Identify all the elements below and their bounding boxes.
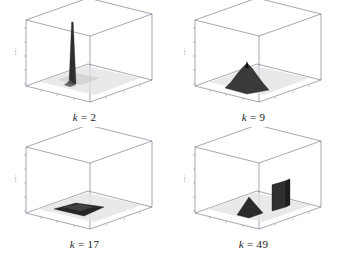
plot-panel-k49: density k = 49 (169, 127, 338, 253)
caption-equals: = (250, 111, 257, 123)
caption-k-symbol: k (73, 111, 78, 123)
caption-value: 9 (260, 111, 266, 123)
floor-shade-k49 (207, 193, 311, 222)
plot-panel-k17: density k = 17 (0, 127, 169, 253)
plot-area-k17: density (0, 127, 169, 231)
z-axis-label-k17: density (14, 174, 17, 182)
plot-area-k49: density (169, 127, 338, 231)
panel-caption-k17: k = 17 (0, 238, 169, 250)
plot-panel-k2: density k = 2 (0, 0, 169, 127)
plot-area-k2: density (0, 0, 169, 104)
plot-panel-k9: density k = 9 (169, 0, 338, 127)
surface-block-k49 (272, 181, 286, 211)
plot-area-k9: density (169, 0, 338, 104)
box-top-k9 (195, 0, 321, 36)
caption-value: 49 (257, 238, 269, 250)
panel-caption-k9: k = 9 (169, 111, 338, 123)
panel-caption-k49: k = 49 (169, 238, 338, 250)
caption-k-symbol: k (239, 238, 244, 250)
box-top-k17 (26, 127, 152, 163)
caption-value: 2 (91, 111, 97, 123)
caption-equals: = (81, 111, 88, 123)
panel-caption-k2: k = 2 (0, 111, 169, 123)
z-axis-label-k9: density (183, 47, 186, 55)
box-top-k2 (26, 0, 152, 36)
surface-block-side-k49 (286, 179, 290, 207)
caption-equals: = (247, 238, 254, 250)
box-top-k49 (195, 127, 321, 163)
caption-value: 17 (88, 238, 100, 250)
z-axis-ticks-k17 (24, 155, 26, 211)
z-axis-ticks-k2 (24, 28, 26, 84)
z-axis-ticks-k49 (193, 155, 195, 211)
z-axis-label-k49: density (183, 174, 186, 182)
caption-equals: = (78, 238, 85, 250)
z-axis-label-k2: density (14, 47, 17, 55)
surface-peak-k2 (69, 22, 76, 84)
caption-k-symbol: k (242, 111, 247, 123)
caption-k-symbol: k (70, 238, 75, 250)
figure-panel-grid: density k = 2 (0, 0, 338, 253)
z-axis-ticks-k9 (193, 28, 195, 84)
